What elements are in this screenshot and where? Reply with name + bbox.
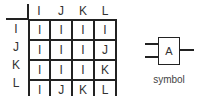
header-horizontal-divider <box>6 18 28 20</box>
column-header-k: K <box>72 4 94 18</box>
table-cell: I <box>29 60 50 80</box>
row-header-l: L <box>8 76 24 90</box>
operation-table: I I I I I I I J I I I K I J K L <box>28 19 117 96</box>
input-wire-2 <box>145 56 158 58</box>
table-cell: I <box>72 60 94 80</box>
table-row: I I I I <box>29 20 116 40</box>
table-cell: I <box>72 40 94 60</box>
row-header-k: K <box>8 58 24 72</box>
row-header-i: I <box>8 22 24 36</box>
gate-label: A <box>165 45 172 57</box>
table-cell: J <box>50 80 72 96</box>
table-cell: I <box>29 80 50 96</box>
table-cell: I <box>50 40 72 60</box>
gate-box: A <box>158 37 180 65</box>
column-header-i: I <box>28 4 50 18</box>
table-cell: K <box>94 60 116 80</box>
table-cell: I <box>72 20 94 40</box>
output-wire <box>180 49 194 51</box>
table-row: I J K L <box>29 80 116 96</box>
table-cell: I <box>50 20 72 40</box>
input-wire-1 <box>145 43 158 45</box>
table-cell: K <box>72 80 94 96</box>
symbol-caption: symbol <box>146 74 192 85</box>
table-cell: I <box>29 40 50 60</box>
row-header-j: J <box>8 40 24 54</box>
table-cell: J <box>94 40 116 60</box>
column-header-j: J <box>50 4 72 18</box>
table-cell: I <box>29 20 50 40</box>
table-cell: I <box>94 20 116 40</box>
table-cell: I <box>50 60 72 80</box>
table-row: I I I J <box>29 40 116 60</box>
column-header-l: L <box>94 4 116 18</box>
table-cell: L <box>94 80 116 96</box>
table-row: I I I K <box>29 60 116 80</box>
